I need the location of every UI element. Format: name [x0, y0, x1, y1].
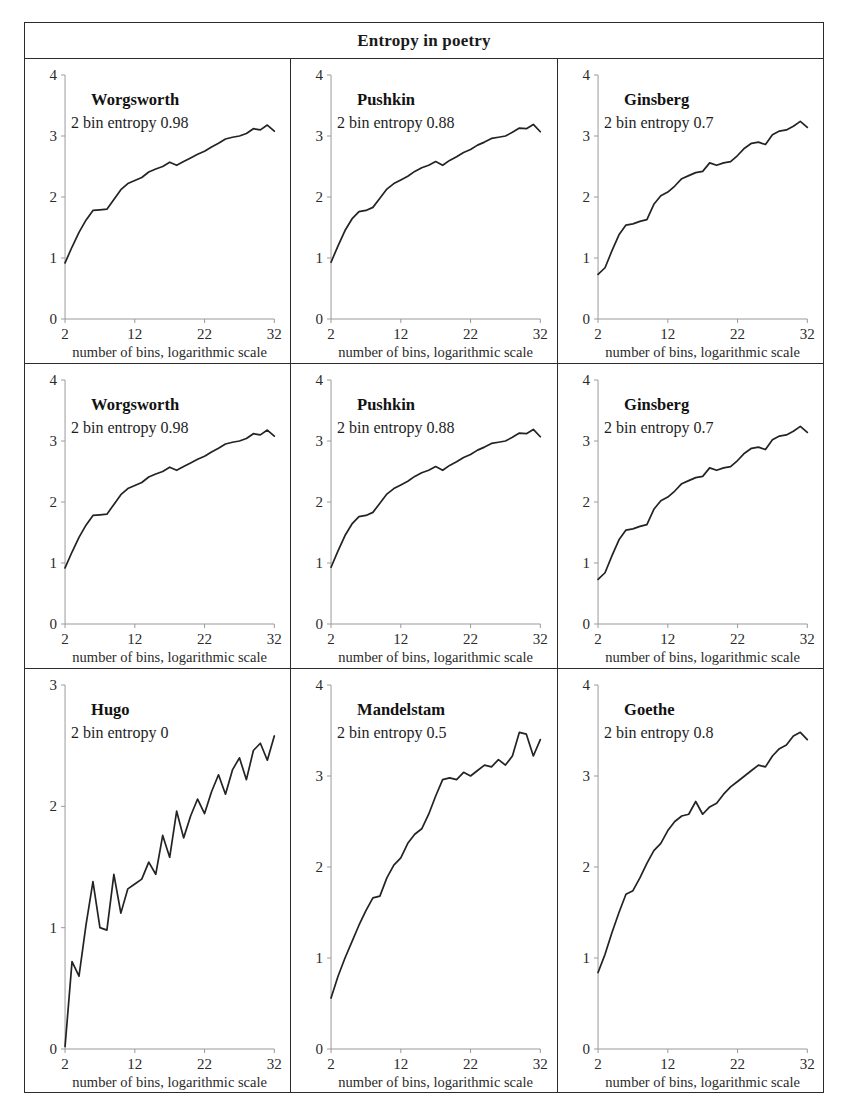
- y-tick-label: 1: [582, 950, 590, 966]
- x-tick-label: 2: [61, 1056, 69, 1072]
- x-axis-caption: number of bins, logarithmic scale: [72, 344, 267, 360]
- series-line: [331, 124, 540, 262]
- x-tick-label: 2: [61, 631, 69, 647]
- y-tick-label: 2: [582, 189, 590, 205]
- y-tick-label: 4: [582, 372, 590, 388]
- y-tick-label: 2: [50, 798, 58, 814]
- y-tick-label: 0: [50, 311, 58, 327]
- x-tick-label: 32: [533, 631, 548, 647]
- x-axis-caption: number of bins, logarithmic scale: [605, 649, 800, 665]
- panel-entropy-annotation: 2 bin entropy 0.5: [337, 724, 446, 742]
- panel-entropy-annotation: 2 bin entropy 0.7: [604, 114, 713, 132]
- panel-title: Pushkin: [357, 395, 415, 414]
- x-tick-label: 22: [197, 1056, 212, 1072]
- x-tick-label: 2: [61, 326, 69, 342]
- y-tick-label: 4: [316, 67, 324, 83]
- x-tick-label: 2: [594, 1056, 602, 1072]
- chart-canvas: 012342122232number of bins, logarithmic …: [558, 59, 823, 363]
- panel-entropy-annotation: 2 bin entropy 0.8: [604, 724, 713, 742]
- chart-panel-hugo[interactable]: 01232122232number of bins, logarithmic s…: [25, 669, 291, 1093]
- y-tick-label: 0: [582, 311, 590, 327]
- x-tick-label: 32: [533, 1056, 548, 1072]
- y-tick-label: 0: [582, 1041, 590, 1057]
- chart-panel-worgsworth-2[interactable]: 012342122232number of bins, logarithmic …: [25, 364, 291, 668]
- panel-grid: 012342122232number of bins, logarithmic …: [25, 59, 823, 1092]
- page-title: Entropy in poetry: [357, 31, 490, 51]
- series-line: [331, 429, 540, 567]
- y-tick-label: 4: [316, 677, 324, 693]
- x-tick-label: 12: [127, 326, 142, 342]
- y-tick-label: 3: [582, 128, 590, 144]
- x-tick-label: 22: [463, 1056, 478, 1072]
- y-tick-label: 0: [316, 616, 324, 632]
- x-tick-label: 22: [197, 631, 212, 647]
- y-tick-label: 2: [582, 494, 590, 510]
- chart-panel-worgsworth-1[interactable]: 012342122232number of bins, logarithmic …: [25, 59, 291, 363]
- y-tick-label: 3: [50, 433, 58, 449]
- panel-entropy-annotation: 2 bin entropy 0.98: [71, 419, 188, 437]
- series-line: [65, 125, 274, 263]
- chart-panel-mandelstam[interactable]: 012342122232number of bins, logarithmic …: [291, 669, 557, 1093]
- series-line: [65, 430, 274, 568]
- y-tick-label: 4: [50, 372, 58, 388]
- panel-title: Worgsworth: [91, 90, 179, 109]
- series-line: [598, 732, 807, 972]
- chart-panel-ginsberg-2[interactable]: 012342122232number of bins, logarithmic …: [558, 364, 823, 668]
- y-tick-label: 4: [582, 67, 590, 83]
- series-line: [65, 736, 274, 1047]
- panel-title: Pushkin: [357, 90, 415, 109]
- panel-entropy-annotation: 2 bin entropy 0: [71, 724, 168, 742]
- y-tick-label: 2: [316, 859, 324, 875]
- chart-panel-ginsberg-1[interactable]: 012342122232number of bins, logarithmic …: [558, 59, 823, 363]
- x-tick-label: 2: [328, 631, 336, 647]
- y-tick-label: 2: [50, 189, 58, 205]
- x-tick-label: 32: [267, 326, 282, 342]
- y-tick-label: 0: [50, 1041, 58, 1057]
- x-tick-label: 12: [394, 1056, 409, 1072]
- chart-canvas: 012342122232number of bins, logarithmic …: [558, 669, 823, 1093]
- panel-title: Hugo: [91, 700, 130, 719]
- chart-panel-pushkin-1[interactable]: 012342122232number of bins, logarithmic …: [291, 59, 557, 363]
- y-tick-label: 1: [316, 950, 324, 966]
- y-tick-label: 3: [582, 768, 590, 784]
- y-tick-label: 3: [316, 768, 324, 784]
- chart-canvas: 012342122232number of bins, logarithmic …: [291, 669, 556, 1093]
- x-tick-label: 22: [463, 326, 478, 342]
- x-tick-label: 22: [197, 326, 212, 342]
- panel-entropy-annotation: 2 bin entropy 0.88: [337, 114, 454, 132]
- y-tick-label: 2: [316, 189, 324, 205]
- series-line: [598, 426, 807, 579]
- x-tick-label: 32: [799, 326, 814, 342]
- x-tick-label: 2: [594, 631, 602, 647]
- panel-row: 012342122232number of bins, logarithmic …: [25, 364, 823, 669]
- y-tick-label: 1: [50, 250, 58, 266]
- y-tick-label: 3: [50, 677, 58, 693]
- x-tick-label: 22: [730, 631, 745, 647]
- x-axis-caption: number of bins, logarithmic scale: [605, 1074, 800, 1090]
- panel-row: 012342122232number of bins, logarithmic …: [25, 59, 823, 364]
- panel-title: Ginsberg: [624, 395, 690, 414]
- x-tick-label: 2: [328, 1056, 336, 1072]
- x-tick-label: 32: [267, 631, 282, 647]
- x-tick-label: 32: [533, 326, 548, 342]
- x-tick-label: 22: [730, 1056, 745, 1072]
- x-tick-label: 32: [799, 631, 814, 647]
- x-tick-label: 2: [594, 326, 602, 342]
- chart-panel-goethe[interactable]: 012342122232number of bins, logarithmic …: [558, 669, 823, 1093]
- panel-entropy-annotation: 2 bin entropy 0.7: [604, 419, 713, 437]
- y-tick-label: 4: [50, 67, 58, 83]
- x-tick-label: 12: [127, 1056, 142, 1072]
- y-tick-label: 2: [582, 859, 590, 875]
- chart-canvas: 012342122232number of bins, logarithmic …: [25, 59, 290, 363]
- y-tick-label: 3: [316, 433, 324, 449]
- x-tick-label: 12: [394, 631, 409, 647]
- x-tick-label: 32: [799, 1056, 814, 1072]
- chart-canvas: 012342122232number of bins, logarithmic …: [291, 59, 556, 363]
- chart-panel-pushkin-2[interactable]: 012342122232number of bins, logarithmic …: [291, 364, 557, 668]
- x-tick-label: 22: [463, 631, 478, 647]
- x-tick-label: 12: [127, 631, 142, 647]
- y-tick-label: 2: [316, 494, 324, 510]
- panel-title: Goethe: [624, 700, 674, 719]
- y-tick-label: 1: [316, 250, 324, 266]
- x-axis-caption: number of bins, logarithmic scale: [72, 1074, 267, 1090]
